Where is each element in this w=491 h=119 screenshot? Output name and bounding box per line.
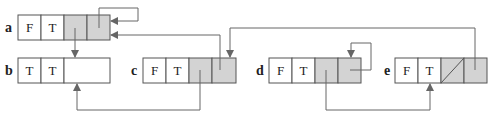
node-label-d: d <box>256 63 264 78</box>
cell-b-3 <box>64 58 110 83</box>
linked-structure-diagram: a F T b T T c F T d F T e <box>0 0 491 119</box>
cell-d-1-value: F <box>277 63 284 78</box>
node-b: b T T <box>5 58 110 83</box>
cell-d-2-value: T <box>300 63 308 78</box>
cell-c-2-value: T <box>174 63 182 78</box>
cell-b-2-value: T <box>49 63 57 78</box>
cell-c-1-value: F <box>151 63 158 78</box>
cell-c-4 <box>212 58 236 83</box>
node-label-b: b <box>5 63 13 78</box>
cell-e-2-value: T <box>426 63 434 78</box>
node-label-c: c <box>131 63 137 78</box>
node-label-e: e <box>384 63 390 78</box>
cell-e-1-value: F <box>403 63 410 78</box>
node-d: d F T <box>256 58 361 83</box>
node-label-a: a <box>5 20 12 35</box>
node-a: a F T <box>5 15 110 40</box>
cell-b-1-value: T <box>26 63 34 78</box>
node-e: e F T <box>384 58 487 83</box>
cell-a-2-value: T <box>49 20 57 35</box>
cell-a-1-value: F <box>26 20 33 35</box>
